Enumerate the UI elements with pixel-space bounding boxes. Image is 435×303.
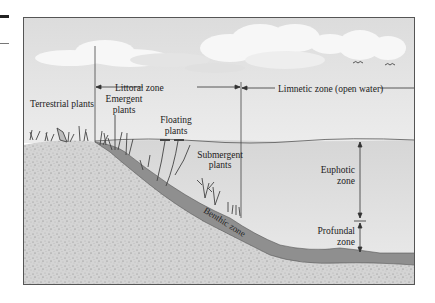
profundal-zone-label-line2: zone [337, 237, 355, 247]
submergent-plants-label-line1: Submergent [197, 150, 243, 160]
terrestrial-plants-label: Terrestrial plants [30, 99, 94, 109]
profundal-zone-label-line1: Profundal [318, 226, 356, 236]
limnetic-zone-label: Limnetic zone (open water) [278, 84, 383, 95]
lake-zonation-diagram: Littoral zone Limnetic zone (open water)… [0, 0, 435, 303]
submergent-plants-label-line2: plants [209, 160, 232, 170]
emergent-plants-label-line1: Emergent [106, 94, 143, 104]
euphotic-zone-label-line2: zone [337, 176, 355, 186]
floating-plants-label-line1: Floating [160, 115, 192, 125]
emergent-plants-label-line2: plants [113, 105, 136, 115]
littoral-zone-label: Littoral zone [115, 83, 164, 93]
euphotic-zone-label-line1: Euphotic [321, 165, 355, 175]
floating-plants-label-line2: plants [165, 126, 188, 136]
